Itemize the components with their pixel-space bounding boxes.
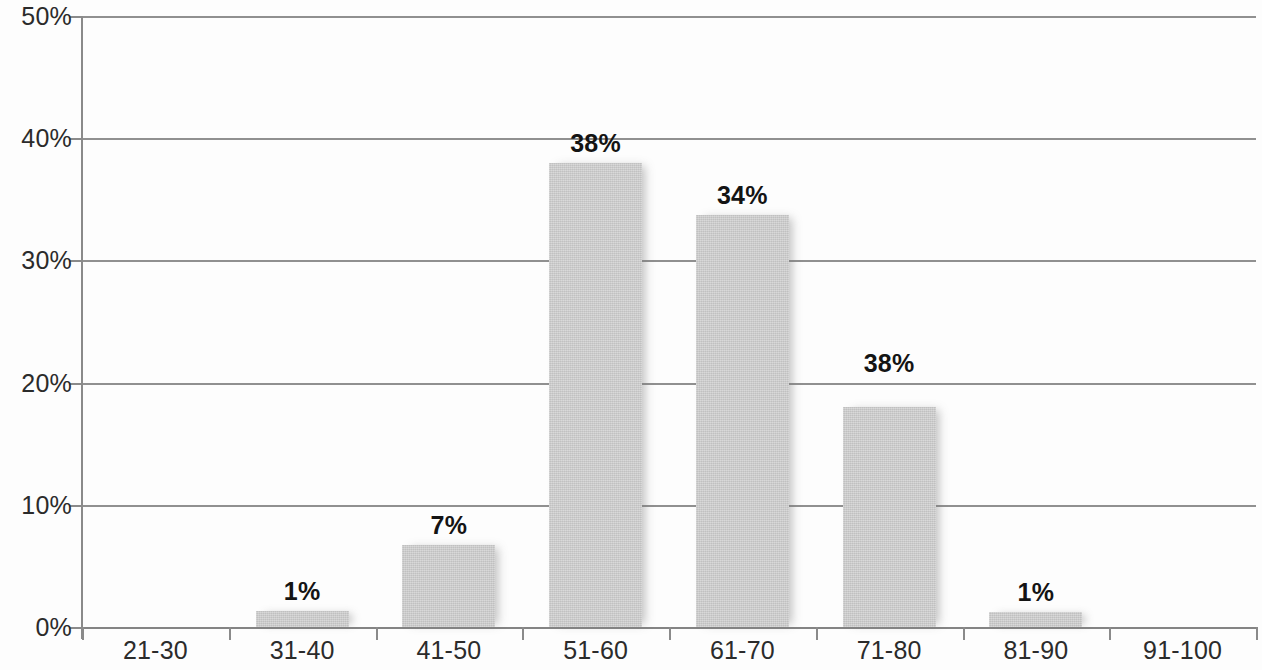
bar-data-label: 34% bbox=[717, 181, 768, 210]
x-axis-category-label: 71-80 bbox=[857, 636, 922, 665]
gridline bbox=[82, 505, 1256, 507]
x-axis-tick bbox=[963, 627, 965, 640]
x-axis-tick bbox=[669, 627, 671, 640]
bar-chart: 0%10%20%30%40%50% 1%7%38%34%38%1% 21-303… bbox=[0, 0, 1262, 670]
x-axis-category-label: 31-40 bbox=[270, 636, 335, 665]
x-axis-tick bbox=[376, 627, 378, 640]
bar-data-label: 1% bbox=[1018, 578, 1055, 607]
x-axis-category-label: 41-50 bbox=[416, 636, 481, 665]
bar bbox=[549, 163, 642, 627]
x-axis-tick bbox=[1256, 627, 1258, 640]
y-axis-tick-label: 0% bbox=[0, 613, 72, 642]
x-axis-tick bbox=[229, 627, 231, 640]
bar-data-label: 38% bbox=[570, 129, 621, 158]
bar bbox=[402, 545, 495, 627]
x-axis-category-label: 61-70 bbox=[710, 636, 775, 665]
x-axis-category-label: 21-30 bbox=[123, 636, 188, 665]
x-axis-tick bbox=[82, 627, 84, 640]
bar bbox=[256, 611, 349, 627]
gridline bbox=[82, 383, 1256, 385]
y-axis-tick-label: 30% bbox=[0, 246, 72, 275]
bar-data-label: 1% bbox=[284, 577, 321, 606]
x-axis-category-label: 91-100 bbox=[1143, 636, 1222, 665]
y-axis-tick-label: 50% bbox=[0, 2, 72, 31]
gridline bbox=[82, 16, 1256, 18]
x-axis-tick bbox=[1109, 627, 1111, 640]
x-axis-category-label: 51-60 bbox=[563, 636, 628, 665]
gridline bbox=[82, 260, 1256, 262]
y-axis-tick-label: 10% bbox=[0, 490, 72, 519]
y-axis-tick-label: 40% bbox=[0, 124, 72, 153]
bar bbox=[989, 612, 1082, 627]
x-axis-category-label: 81-90 bbox=[1003, 636, 1068, 665]
bar-data-label: 38% bbox=[864, 349, 915, 378]
gridline bbox=[82, 138, 1256, 140]
y-axis-line bbox=[81, 16, 83, 639]
y-axis-tick-label: 20% bbox=[0, 368, 72, 397]
x-axis-tick bbox=[816, 627, 818, 640]
bar-data-label: 7% bbox=[431, 511, 468, 540]
bar bbox=[843, 407, 936, 627]
bar bbox=[696, 215, 789, 627]
x-axis-tick bbox=[522, 627, 524, 640]
